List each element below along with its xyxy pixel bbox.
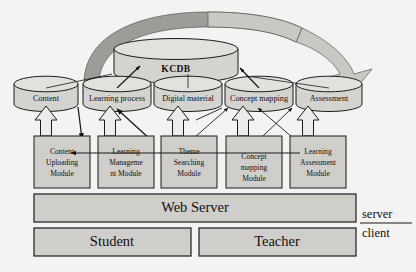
database-label-concept-mapping: Concept mapping [230, 94, 288, 103]
module-label-line: Manageme [109, 158, 143, 167]
database-cylinder-assessment: Assessment [296, 76, 362, 111]
database-label-learning-process: Learning process [89, 94, 145, 103]
kcdb-label: KCDB [161, 63, 191, 74]
database-cylinder-learning-process: Learning process [83, 76, 151, 111]
web-server-layer[interactable]: Web Server [34, 194, 356, 222]
diagram-canvas: KCDB Content Learning process Digital ma… [0, 0, 416, 272]
architecture-diagram: KCDB Content Learning process Digital ma… [0, 0, 416, 272]
module-label-line: Uploading [46, 158, 78, 167]
module-label-line: Searching [174, 158, 205, 167]
database-label-digital-material: Digital material [162, 94, 214, 103]
module-box-learning-management[interactable]: Learning Manageme nt Module [98, 136, 154, 188]
server-client-annotation: server client [360, 207, 412, 240]
module-label-line: Theme [178, 147, 200, 156]
module-label-line: Learning [112, 147, 140, 156]
module-box-learning-assessment[interactable]: Learning Assessment Module [290, 136, 346, 188]
module-label-line: Module [306, 169, 330, 178]
module-label-line: Assessment [300, 158, 337, 167]
student-layer[interactable]: Student [34, 228, 191, 256]
module-box-concept-mapping[interactable]: Concept mapping Module [226, 136, 282, 188]
database-label-assessment: Assessment [310, 94, 349, 103]
module-label-line: Module [177, 169, 201, 178]
server-side-label: server [362, 207, 393, 221]
module-label-line: Learning [304, 147, 332, 156]
module-box-content-uploading[interactable]: Content Uploading Module [34, 136, 90, 188]
module-label-line: Module [50, 169, 74, 178]
module-label-line: Content [50, 147, 75, 156]
teacher-label: Teacher [254, 233, 300, 249]
module-box-theme-searching[interactable]: Theme Searching Module [161, 136, 217, 188]
student-label: Student [90, 233, 134, 249]
database-label-content: Content [33, 94, 60, 103]
module-label-line: nt Module [110, 169, 142, 178]
web-server-label: Web Server [161, 199, 229, 215]
client-side-label: client [362, 226, 390, 240]
teacher-layer[interactable]: Teacher [199, 228, 356, 256]
module-label-line: Module [242, 174, 266, 183]
module-label-line: mapping [241, 163, 268, 172]
